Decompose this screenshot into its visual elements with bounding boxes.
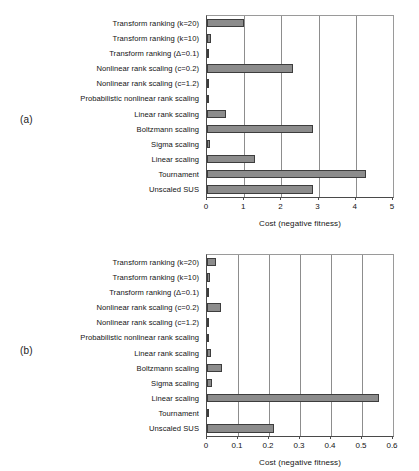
bar — [207, 424, 274, 432]
x-tick-label: 0.4 — [324, 441, 335, 450]
x-tick-mark — [355, 197, 356, 200]
category-label: Tournament — [0, 406, 203, 421]
category-label: Linear scaling — [0, 391, 203, 406]
x-tick-mark — [237, 436, 238, 439]
category-label: Sigma scaling — [0, 137, 203, 152]
x-tick-mark — [280, 197, 281, 200]
bar — [207, 334, 209, 342]
category-label-list-a: Transform ranking (k=20)Transform rankin… — [0, 16, 203, 197]
category-label: Linear rank scaling — [0, 346, 203, 361]
x-tick-mark — [206, 436, 207, 439]
bar — [207, 364, 222, 372]
bar — [207, 49, 209, 57]
bar — [207, 79, 209, 87]
category-label-list-b: Transform ranking (k=20)Transform rankin… — [0, 255, 203, 436]
bar — [207, 95, 209, 103]
bar-row — [207, 62, 393, 77]
category-label: Boltzmann scaling — [0, 361, 203, 376]
bar — [207, 185, 313, 193]
bar-row — [207, 92, 393, 107]
x-tick-mark — [361, 436, 362, 439]
x-tick-label: 0.5 — [355, 441, 366, 450]
bar-row — [207, 346, 393, 361]
bar-row — [207, 256, 393, 271]
bar — [207, 155, 255, 163]
x-tick-labels-b: 00.10.20.30.40.50.6 — [0, 439, 419, 451]
x-tick-label: 0.6 — [386, 441, 397, 450]
bar-row — [207, 331, 393, 346]
bar-row — [207, 122, 393, 137]
gridline — [393, 16, 394, 197]
category-label: Transform ranking (k=20) — [0, 16, 203, 31]
x-tick-mark — [330, 436, 331, 439]
bar — [207, 409, 209, 417]
x-tick-label: 3 — [315, 202, 319, 211]
category-label: Transform ranking (Δ=0.1) — [0, 285, 203, 300]
bar-row — [207, 152, 393, 167]
bar-row — [207, 17, 393, 32]
category-label: Transform ranking (k=10) — [0, 270, 203, 285]
category-label: Sigma scaling — [0, 376, 203, 391]
bar — [207, 125, 313, 133]
bar — [207, 318, 209, 326]
bar-row — [207, 271, 393, 286]
bar — [207, 303, 221, 311]
bar — [207, 110, 226, 118]
bar-row — [207, 137, 393, 152]
category-label: Probabilistic nonlinear rank scaling — [0, 330, 203, 345]
bar — [207, 349, 211, 357]
x-tick-label: 2 — [278, 202, 282, 211]
category-label: Nonlinear rank scaling (c=0.2) — [0, 61, 203, 76]
bar-row — [207, 168, 393, 183]
category-label: Transform ranking (k=10) — [0, 31, 203, 46]
bar-row — [207, 391, 393, 406]
bar — [207, 273, 210, 281]
bar — [207, 258, 216, 266]
x-axis-title-b: Cost (negative fitness) — [259, 458, 341, 467]
x-tick-label: 5 — [390, 202, 394, 211]
bar — [207, 64, 293, 72]
category-label: Linear scaling — [0, 152, 203, 167]
category-label: Unscaled SUS — [0, 421, 203, 436]
x-tick-mark — [392, 197, 393, 200]
plot-area-b — [206, 254, 394, 437]
x-tick-label: 0.1 — [231, 441, 242, 450]
bar-row — [207, 183, 393, 198]
x-tick-label: 0.2 — [262, 441, 273, 450]
x-axis-title-a: Cost (negative fitness) — [259, 219, 341, 228]
bar-row — [207, 407, 393, 422]
x-tick-mark — [206, 197, 207, 200]
bar-row — [207, 301, 393, 316]
category-label: Transform ranking (k=20) — [0, 255, 203, 270]
bar — [207, 19, 244, 27]
bar — [207, 394, 379, 402]
bar — [207, 379, 212, 387]
bar-row — [207, 47, 393, 62]
x-tick-mark — [318, 197, 319, 200]
category-label: Nonlinear rank scaling (c=1.2) — [0, 315, 203, 330]
plot-area-a — [206, 15, 394, 198]
category-label: Nonlinear rank scaling (c=0.2) — [0, 300, 203, 315]
x-tick-label: 0 — [204, 202, 208, 211]
x-tick-label: 4 — [353, 202, 357, 211]
chart-panel-a: (a) Transform ranking (k=20)Transform ra… — [0, 0, 419, 236]
category-label: Unscaled SUS — [0, 182, 203, 197]
figure-container: (a) Transform ranking (k=20)Transform ra… — [0, 0, 419, 471]
x-tick-label: 0.3 — [293, 441, 304, 450]
bar — [207, 288, 209, 296]
category-label: Boltzmann scaling — [0, 122, 203, 137]
bar-row — [207, 107, 393, 122]
x-tick-label: 0 — [204, 441, 208, 450]
bar-row — [207, 376, 393, 391]
bar — [207, 34, 211, 42]
x-tick-labels-a: 012345 — [0, 200, 419, 212]
bar-row — [207, 32, 393, 47]
x-tick-mark — [268, 436, 269, 439]
chart-panel-b: (b) Transform ranking (k=20)Transform ra… — [0, 235, 419, 471]
x-tick-mark — [243, 197, 244, 200]
x-tick-label: 1 — [241, 202, 245, 211]
category-label: Tournament — [0, 167, 203, 182]
bar-row — [207, 361, 393, 376]
bar — [207, 170, 366, 178]
bar-row — [207, 316, 393, 331]
